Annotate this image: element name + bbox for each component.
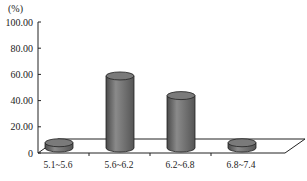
y-tick-label: 40.00: [11, 95, 34, 106]
x-tick-label: 5.1~5.6: [44, 160, 73, 170]
bar-cylinder: [167, 92, 195, 152]
x-tick-label: 6.8~7.4: [227, 160, 256, 170]
y-tick-label: 60.00: [11, 69, 34, 80]
y-tick-label: 20.00: [11, 121, 34, 132]
y-axis: 020.0040.0060.0080.00100.00: [6, 17, 42, 159]
x-tick-label: 5.6~6.2: [105, 160, 134, 170]
cylinder-bar-chart: (%) 020.0040.0060.0080.00100.00 5.1~5.65…: [0, 0, 307, 181]
bar-cylinder: [228, 139, 256, 152]
bar-cylinder: [45, 139, 73, 152]
x-axis: 5.1~5.65.6~6.26.2~6.86.8~7.4: [44, 153, 256, 170]
bar-cylinder: [106, 72, 134, 152]
x-tick-label: 6.2~6.8: [166, 160, 195, 170]
bars: [45, 72, 256, 152]
y-axis-unit-label: (%): [8, 3, 23, 15]
y-tick-label: 100.00: [6, 17, 34, 28]
y-tick-label: 0: [28, 148, 33, 159]
y-tick-label: 80.00: [11, 43, 34, 54]
